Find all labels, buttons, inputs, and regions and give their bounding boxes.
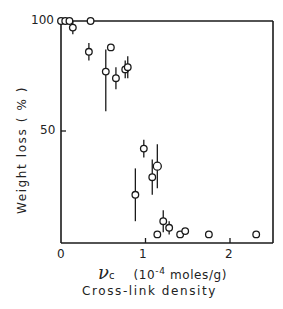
data-points xyxy=(58,18,260,238)
data-point-marker xyxy=(66,18,73,25)
data-point-marker xyxy=(87,18,94,25)
y-tick-label-50: 50 xyxy=(40,123,55,137)
data-point-marker xyxy=(182,228,189,235)
data-point-marker xyxy=(206,231,213,238)
data-point-marker xyxy=(86,49,93,56)
data-point-marker xyxy=(124,64,131,71)
data-point-marker xyxy=(113,75,120,82)
data-point-marker xyxy=(153,162,161,170)
x-axis-units: (10-4 moles/g) xyxy=(134,268,228,282)
data-point-marker xyxy=(70,24,77,31)
nu-symbol: ν xyxy=(98,262,109,283)
data-point-marker xyxy=(166,225,173,232)
data-point-marker xyxy=(102,68,109,75)
data-point-marker xyxy=(253,231,260,238)
nu-subscript: c xyxy=(109,270,115,281)
y-axis-label: Weight loss ( % ) xyxy=(15,86,29,214)
x-axis-symbol-units: νc (10-4 moles/g) xyxy=(98,262,227,283)
y-tick-label-100: 100 xyxy=(31,13,54,27)
x-tick-label-1: 1 xyxy=(139,247,147,261)
x-tick-label-0: 0 xyxy=(57,247,65,261)
x-tick-label-2: 2 xyxy=(225,247,233,261)
plot-frame xyxy=(61,21,273,243)
data-point-marker xyxy=(149,174,156,181)
data-point-marker xyxy=(154,231,161,238)
x-axis-label: Cross-link density xyxy=(82,284,217,298)
data-point-marker xyxy=(132,192,139,199)
data-point-marker xyxy=(141,145,148,152)
data-point-marker xyxy=(160,218,167,225)
data-point-marker xyxy=(108,44,115,51)
